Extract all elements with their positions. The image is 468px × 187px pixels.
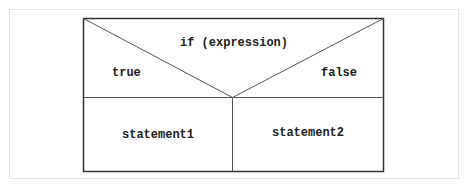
if-structogram [0,0,468,187]
true-label: true [112,66,141,80]
left-diagonal [84,19,233,98]
false-label: false [321,66,357,80]
condition-label: if (expression) [180,36,288,50]
true-branch-statement: statement1 [122,128,194,142]
right-diagonal [233,19,384,98]
false-branch-statement: statement2 [272,126,344,140]
